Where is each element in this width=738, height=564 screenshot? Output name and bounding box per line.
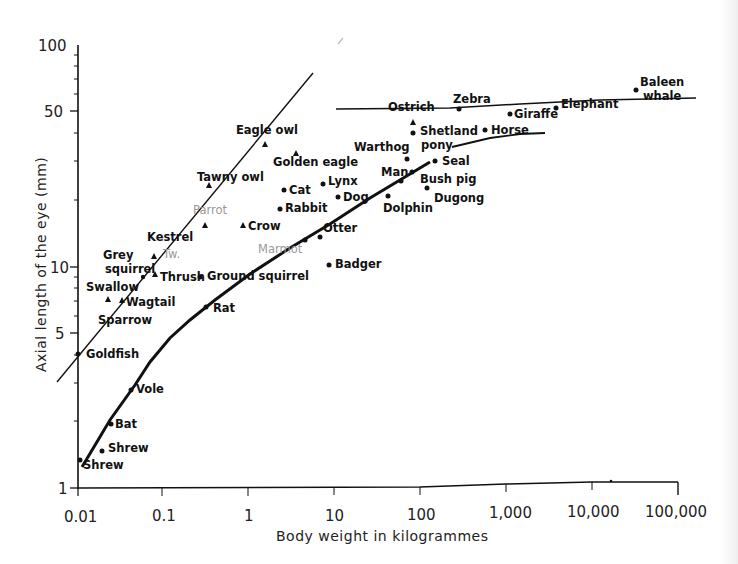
triangle-marker bbox=[240, 222, 246, 228]
label-man: Man bbox=[381, 165, 408, 179]
y-tick-label: 1 bbox=[58, 480, 68, 498]
label-tawny-owl: Tawny owl bbox=[197, 170, 264, 184]
x-tick-label: 100 bbox=[407, 506, 436, 524]
x-tick-label: 1 bbox=[244, 507, 254, 525]
y-tick-label: 100 bbox=[38, 37, 67, 55]
label-giraffe: Giraffe bbox=[514, 107, 558, 121]
label-swallow: Swallow bbox=[86, 280, 139, 294]
label-elephant: Elephant bbox=[561, 97, 619, 111]
dot-marker bbox=[410, 170, 415, 175]
label-baleen: Baleen bbox=[640, 75, 684, 89]
label-whale: whale bbox=[643, 89, 682, 103]
label-zebra: Zebra bbox=[453, 92, 491, 106]
dot-marker bbox=[483, 128, 488, 133]
dot-marker bbox=[109, 422, 114, 427]
label-thrush: Thrush bbox=[160, 270, 205, 284]
label-dolphin: Dolphin bbox=[383, 201, 433, 215]
scan-edge-shadow bbox=[720, 0, 738, 564]
label-ostrich: Ostrich bbox=[388, 100, 435, 114]
label-wagtail: Wagtail bbox=[126, 295, 175, 309]
label-bat: Bat bbox=[115, 417, 138, 431]
dot-marker bbox=[129, 388, 134, 393]
dot-marker bbox=[386, 194, 391, 199]
label-marmot: Marmot bbox=[258, 242, 303, 256]
label-ground-squirrel: Ground squirrel bbox=[207, 269, 309, 283]
dot-marker bbox=[303, 238, 308, 243]
y-axis-title: Axial length of the eye (mm) bbox=[33, 157, 49, 372]
dot-marker bbox=[405, 157, 410, 162]
dot-marker bbox=[411, 131, 416, 136]
label-sparrow: Sparrow bbox=[98, 313, 153, 327]
label-parrot: Parrot bbox=[193, 203, 228, 217]
x-tick-label: 0.01 bbox=[64, 508, 97, 526]
y-tick-label: 10 bbox=[50, 259, 69, 277]
dot-marker bbox=[508, 112, 513, 117]
label-shetland: Shetland bbox=[420, 124, 478, 138]
label-dog: Dog bbox=[343, 190, 369, 204]
x-tick-label: 100,000 bbox=[645, 503, 707, 521]
dot-marker bbox=[327, 263, 332, 268]
label-shrew: Shrew bbox=[83, 458, 124, 472]
dot-marker bbox=[425, 186, 430, 191]
dot-marker bbox=[457, 107, 462, 112]
dot-marker bbox=[318, 235, 323, 240]
x-tick-label: 10 bbox=[325, 507, 344, 525]
triangle-marker bbox=[410, 119, 416, 125]
label-kestrel: Kestrel bbox=[147, 230, 193, 244]
label-vole: Vole bbox=[136, 382, 164, 396]
label-tw: Tw. bbox=[162, 247, 180, 261]
label-otter: Otter bbox=[323, 221, 358, 235]
x-tick-label: 0.1 bbox=[152, 507, 176, 525]
label-dugong: Dugong bbox=[434, 191, 484, 205]
label-badger: Badger bbox=[335, 257, 382, 271]
triangle-marker bbox=[262, 141, 268, 147]
label-rat: Rat bbox=[213, 301, 236, 315]
dot-marker bbox=[100, 449, 105, 454]
triangle-marker bbox=[202, 222, 208, 228]
label-eagle-owl: Eagle owl bbox=[236, 123, 298, 137]
label-rabbit: Rabbit bbox=[285, 201, 328, 215]
label-warthog: Warthog bbox=[354, 140, 410, 154]
y-axis: 100 50 10 5 1 Axial length of the eye (m… bbox=[33, 37, 78, 498]
point-labels: Grey squirrel Swallow Wagtail Sparrow Go… bbox=[83, 75, 684, 472]
label-cat: Cat bbox=[289, 183, 311, 197]
label-lynx: Lynx bbox=[328, 174, 358, 188]
dot-marker bbox=[78, 458, 83, 463]
dot-marker bbox=[634, 88, 639, 93]
x-tick-label: 1,000 bbox=[489, 504, 532, 522]
label-shrew: Shrew bbox=[108, 441, 149, 455]
label-golden-eagle: Golden eagle bbox=[273, 155, 358, 169]
dot-marker bbox=[399, 179, 404, 184]
dot-marker bbox=[76, 352, 81, 357]
label-bush-pig: Bush pig bbox=[420, 172, 476, 186]
triangle-marker bbox=[151, 253, 157, 259]
dot-marker bbox=[282, 188, 287, 193]
x-tick-label: 10,000 bbox=[567, 503, 620, 521]
label-goldfish: Goldfish bbox=[86, 347, 139, 361]
eye-length-vs-body-weight-chart: 100 50 10 5 1 Axial length of the eye (m… bbox=[0, 0, 738, 564]
dot-marker bbox=[204, 305, 209, 310]
y-tick-label: 5 bbox=[55, 325, 65, 343]
label-horse: Horse bbox=[491, 123, 529, 137]
label-crow: Crow bbox=[248, 219, 281, 233]
dot-marker bbox=[321, 182, 326, 187]
x-axis-title: Body weight in kilogrammes bbox=[276, 528, 489, 544]
dot-marker bbox=[278, 207, 283, 212]
label-seal: Seal bbox=[442, 154, 470, 168]
label-squirrel: squirrel bbox=[105, 262, 155, 276]
label-grey: Grey bbox=[103, 248, 134, 262]
dot-marker bbox=[433, 159, 438, 164]
x-axis: 0.01 0.1 1 10 100 1,000 10,000 100,000 B… bbox=[64, 480, 707, 544]
label-pony: pony bbox=[421, 138, 453, 152]
dot-marker bbox=[336, 195, 341, 200]
y-tick-label: 50 bbox=[44, 103, 63, 121]
triangle-marker bbox=[105, 296, 111, 302]
